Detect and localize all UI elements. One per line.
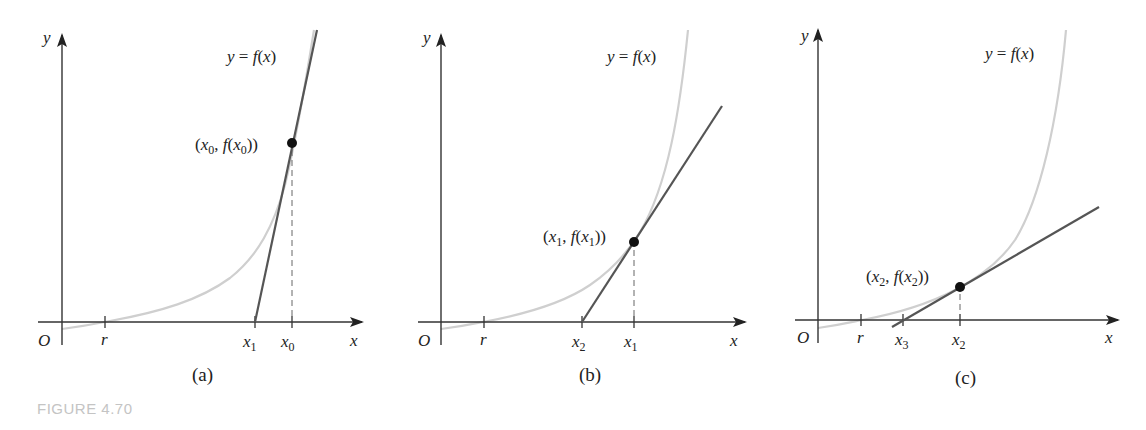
point-label: (x1, f(x1)) <box>543 227 606 249</box>
panel-a: y y = f(x) (x0, f(x0)) O r x1 x0 x (a) <box>38 28 362 386</box>
point-label: (x2, f(x2)) <box>866 267 929 289</box>
tick-label-r: r <box>480 330 487 349</box>
tangent-line <box>255 30 317 322</box>
y-label: y <box>41 28 51 47</box>
x-label: x <box>729 331 738 350</box>
curve-f <box>62 30 314 329</box>
y-label: y <box>421 28 431 47</box>
point-label: (x0, f(x0)) <box>195 135 258 157</box>
panel-label: (b) <box>579 364 601 386</box>
curve-label: y = f(x) <box>605 47 656 66</box>
panel-b: y y = f(x) (x1, f(x1)) O r x2 x1 x (b) <box>418 28 745 386</box>
point-x2 <box>955 282 965 292</box>
curve-label: y = f(x) <box>225 47 276 66</box>
tick-label-x1: x1 <box>242 332 257 354</box>
tick-label-x2: x2 <box>571 332 586 354</box>
figure-caption: FIGURE 4.70 <box>37 400 133 417</box>
origin-label: O <box>418 331 430 350</box>
tick-label-x0: x0 <box>280 332 295 354</box>
origin-label: O <box>797 328 809 347</box>
curve-label: y = f(x) <box>983 44 1034 63</box>
curve-f <box>441 30 688 329</box>
x-label: x <box>349 331 358 350</box>
point-x1 <box>629 237 639 247</box>
tick-label-r: r <box>857 328 864 347</box>
tick-label-x1: x1 <box>623 332 638 354</box>
tangent-line <box>582 106 722 322</box>
panel-label: (c) <box>955 367 976 389</box>
y-label: y <box>799 26 809 45</box>
tick-label-x2: x2 <box>951 330 966 352</box>
panel-label: (a) <box>192 364 213 386</box>
x-label: x <box>1104 328 1113 347</box>
curve-f <box>818 30 1066 328</box>
point-x0 <box>287 138 297 148</box>
origin-label: O <box>38 331 50 350</box>
newton-method-figure: y y = f(x) (x0, f(x0)) O r x1 x0 x (a) y… <box>0 0 1146 430</box>
tick-label-r: r <box>101 330 108 349</box>
tick-label-x3: x3 <box>894 330 909 352</box>
panel-c: y y = f(x) (x2, f(x2)) O r x3 x2 x (c) <box>795 26 1118 389</box>
